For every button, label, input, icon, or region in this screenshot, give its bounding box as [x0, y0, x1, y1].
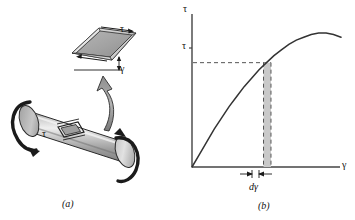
element-gamma-label: γ [120, 64, 124, 74]
figure-canvas [0, 0, 355, 220]
panel-a [13, 27, 139, 182]
d-gamma-dimension [240, 170, 272, 178]
left-torque-head [28, 147, 40, 157]
y-axis-label: τ [183, 4, 187, 14]
shaft-tau-label: τ [42, 129, 46, 139]
right-torque-head [114, 128, 126, 137]
callout-arrow-body [97, 76, 114, 131]
d-gamma-strip [264, 63, 271, 167]
enlarged-shear-element [72, 27, 136, 71]
callout-arrow [97, 76, 114, 131]
panel-a-caption: (a) [62, 198, 74, 209]
cylindrical-shaft [13, 102, 139, 182]
panel-b [189, 14, 341, 178]
d-gamma-label: dγ [249, 182, 258, 192]
element-tau-label: τ [120, 24, 124, 34]
panel-b-caption: (b) [258, 200, 270, 211]
x-axis-label: γ [342, 160, 346, 170]
tau-tick-label: τ [182, 41, 186, 51]
